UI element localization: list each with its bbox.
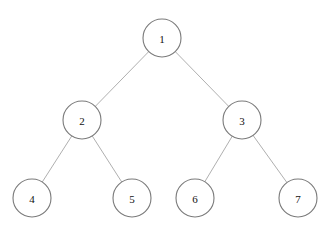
node-label: 6 <box>192 193 198 205</box>
node-4: 4 <box>13 179 51 217</box>
node-3: 3 <box>223 101 261 139</box>
node-label: 5 <box>129 193 135 205</box>
node-label: 2 <box>79 115 85 127</box>
node-2: 2 <box>63 101 101 139</box>
node-5: 5 <box>113 179 151 217</box>
node-6: 6 <box>176 179 214 217</box>
node-7: 7 <box>279 179 317 217</box>
node-label: 1 <box>159 33 165 45</box>
nodes: 1 2 3 4 5 6 7 <box>13 19 317 217</box>
node-1: 1 <box>143 19 181 57</box>
tree-diagram: 1 2 3 4 5 6 7 <box>0 0 332 232</box>
node-label: 3 <box>239 115 245 127</box>
node-label: 4 <box>29 193 35 205</box>
node-label: 7 <box>295 193 301 205</box>
